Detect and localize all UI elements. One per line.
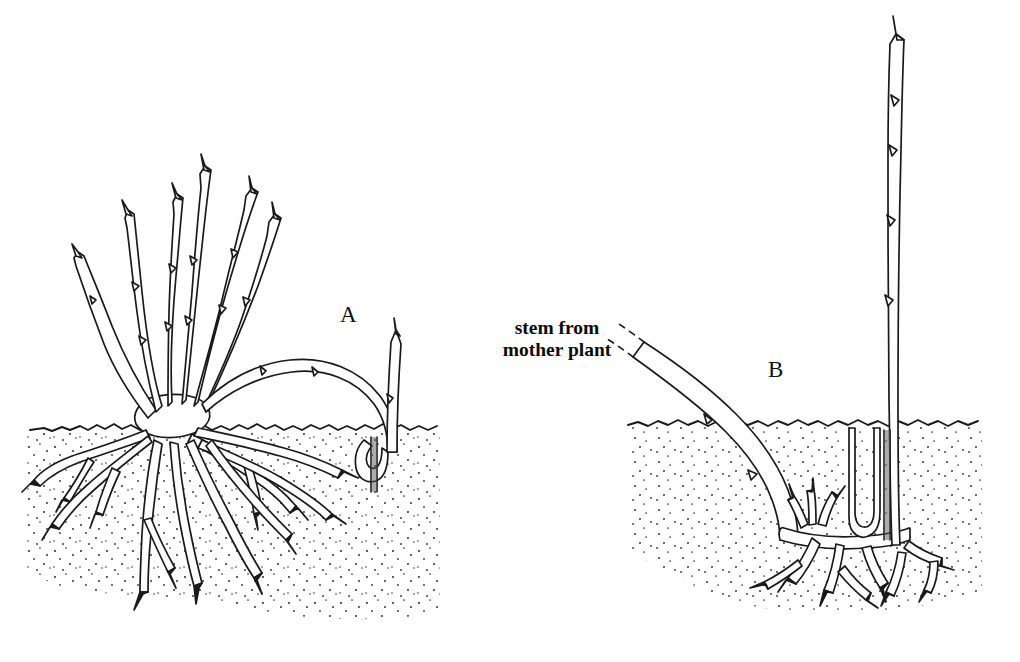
panel-label-a: A xyxy=(340,303,357,326)
soil-pin-a-fill xyxy=(371,437,377,492)
figure-canvas: A B stem from mother plant xyxy=(0,0,1020,662)
root-b-up-2 xyxy=(807,490,816,525)
callout-stem-from-mother-plant: stem from mother plant xyxy=(489,317,625,361)
panel-label-b: B xyxy=(768,358,784,381)
soil-pin-b-stake-fill xyxy=(884,430,890,540)
